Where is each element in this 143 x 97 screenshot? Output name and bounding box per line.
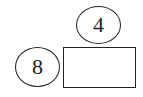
left-ellipse-node: 8 (15, 47, 60, 87)
top-ellipse-node: 4 (76, 6, 121, 44)
left-ellipse-label: 8 (32, 54, 43, 80)
empty-rectangle-box (63, 47, 136, 88)
top-ellipse-label: 4 (93, 12, 104, 38)
